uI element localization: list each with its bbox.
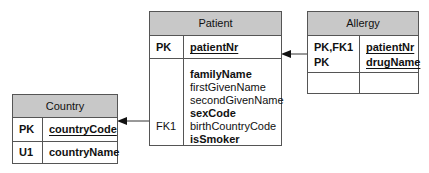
fk-label: FK1 — [156, 120, 183, 133]
attributes-row — [308, 73, 418, 93]
attribute-firstGivenName: firstGivenName — [190, 81, 281, 94]
pk-row: PK,FK1 PK patientNr drugName — [308, 36, 418, 73]
attribute-countryCode: countryCode — [49, 123, 117, 135]
entity-title: Country — [13, 95, 117, 118]
entity-patient[interactable]: Patient PK patientNr FK1 familyName firs… — [149, 11, 282, 146]
attribute-patientNr: patientNr — [366, 40, 418, 55]
pk-row: PK patientNr — [150, 36, 281, 59]
attribute-drugName: drugName — [366, 55, 418, 70]
attribute-birthCountryCode: birthCountryCode — [190, 120, 281, 133]
attribute-familyName: familyName — [190, 68, 281, 81]
entity-title: Allergy — [308, 12, 418, 36]
entity-title: Patient — [150, 12, 281, 36]
key-label: PK — [150, 36, 184, 58]
key-label: PK — [314, 55, 359, 70]
key-label: PK,FK1 — [314, 40, 359, 55]
pk-row: PK countryCode — [13, 118, 117, 142]
entity-country[interactable]: Country PK countryCode U1 countryName — [12, 94, 118, 164]
attribute-patientNr: patientNr — [190, 41, 238, 53]
attribute-isSmoker: isSmoker — [190, 133, 281, 146]
arrowhead-icon — [117, 117, 127, 125]
attribute-secondGivenName: secondGivenName — [190, 94, 281, 107]
unique-row: U1 countryName — [13, 142, 117, 163]
attribute-countryName: countryName — [49, 146, 119, 158]
entity-allergy[interactable]: Allergy PK,FK1 PK patientNr drugName — [307, 11, 419, 94]
key-label: PK — [13, 118, 43, 141]
key-label: U1 — [13, 142, 43, 163]
arrowhead-icon — [281, 50, 291, 58]
attributes-row: FK1 familyName firstGivenName secondGive… — [150, 59, 281, 145]
attribute-sexCode: sexCode — [190, 107, 281, 120]
